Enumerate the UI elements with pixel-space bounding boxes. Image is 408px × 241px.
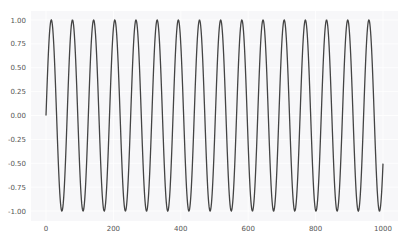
sine-wave-chart: 1.000.750.500.250.00-0.25-0.50-0.75-1.00… — [0, 0, 408, 241]
x-tick-label: 800 — [309, 225, 322, 233]
y-tick-label: -0.25 — [8, 136, 26, 144]
y-tick-label: 0.75 — [10, 40, 26, 48]
x-axis: 02004006008001000 — [44, 225, 392, 233]
y-tick-label: 0.00 — [10, 112, 26, 120]
y-axis: 1.000.750.500.250.00-0.25-0.50-0.75-1.00 — [8, 17, 26, 216]
x-tick-label: 1000 — [374, 225, 392, 233]
y-tick-label: -0.50 — [8, 160, 26, 168]
y-tick-label: 1.00 — [10, 17, 26, 25]
x-tick-label: 0 — [44, 225, 48, 233]
y-tick-label: -1.00 — [8, 208, 26, 216]
x-tick-label: 600 — [242, 225, 255, 233]
x-tick-label: 200 — [107, 225, 120, 233]
x-tick-label: 400 — [174, 225, 187, 233]
y-tick-label: 0.25 — [10, 88, 26, 96]
y-tick-label: -0.75 — [8, 184, 26, 192]
y-tick-label: 0.50 — [10, 64, 26, 72]
